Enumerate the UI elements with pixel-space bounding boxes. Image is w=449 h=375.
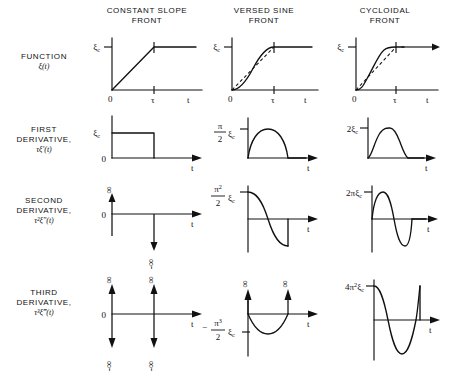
column-header-versed-sine: VERSED SINE FRONT [208, 6, 320, 25]
x-axis-arrow [192, 155, 202, 162]
impulse-down-at-tau [151, 314, 158, 348]
panel-function-constant-slope: ξc 0 τ t [92, 34, 216, 106]
curve-versed-sine [232, 47, 312, 90]
panel-third-derivative-versed-sine: ∞ ∞ − π3 2 ξc t [196, 268, 330, 372]
panel-first-derivative-constant-slope: ξc 0 t [92, 112, 216, 174]
impulse-up-at-zero [109, 284, 116, 314]
impulse-down-at-zero [109, 314, 116, 348]
x-axis-arrow [308, 155, 318, 162]
x-axis-label: t [191, 163, 194, 173]
column-header-constant-slope: CONSTANT SLOPE FRONT [88, 6, 206, 25]
y-axis-label: 2ξc [347, 124, 359, 135]
tau-label: τ [393, 95, 397, 105]
origin-label: 0 [228, 94, 233, 104]
panel-first-derivative-versed-sine: π 2 ξc t [206, 112, 330, 174]
svg-text:ξc: ξc [228, 129, 235, 140]
panel-third-derivative-cycloidal: 4π2ξc t [324, 268, 448, 372]
origin-label: 0 [108, 94, 113, 104]
panel-second-derivative-constant-slope: ∞ 0 -∞ t [92, 178, 216, 270]
row-label-symbol: τ³ξ‴(t) [2, 308, 86, 318]
x-axis-arrow [308, 311, 318, 318]
x-axis-label: t [307, 224, 310, 234]
row-label-line2: DERIVATIVE, [2, 135, 86, 145]
y-axis-label: 4π2ξc [345, 281, 364, 293]
x-axis-label: t [426, 95, 429, 105]
y-axis-label: ξc [213, 42, 220, 53]
svg-text:2: 2 [216, 332, 221, 342]
x-axis-arrow [430, 317, 440, 324]
figure-root: CONSTANT SLOPE FRONT VERSED SINE FRONT C… [0, 0, 449, 375]
panel-function-versed-sine: ξc 0 τ t [212, 34, 330, 106]
infinity-label-positive-left: ∞ [103, 276, 114, 283]
x-axis-arrow [308, 216, 318, 223]
impulse-up-at-tau [151, 284, 158, 314]
x-axis-label: t [191, 219, 194, 229]
y-axis-label: − π3 2 ξc [202, 317, 235, 342]
x-axis-label: t [187, 95, 190, 105]
column-header-cycloidal: CYCLOIDAL FRONT [330, 6, 440, 25]
infinity-label-positive: ∞ [103, 186, 114, 193]
x-axis-label: t [427, 224, 430, 234]
y-axis-label: ξc [337, 42, 344, 53]
row-label-line2: DERIVATIVE, [2, 298, 86, 308]
y-axis-label: π2 2 ξc [211, 183, 235, 208]
x-axis-label: t [429, 325, 432, 335]
zero-label: 0 [102, 154, 107, 164]
row-label-line2: DERIVATIVE, [2, 206, 86, 216]
y-axis-label: π 2 ξc [214, 121, 235, 144]
column-header-line1: VERSED SINE [208, 6, 320, 16]
dashed-chord [356, 47, 396, 90]
svg-text:2: 2 [218, 134, 223, 144]
row-label-line1: FIRST [2, 125, 86, 135]
infinity-label-positive-right: ∞ [145, 276, 156, 283]
row-label-symbol: ξ(t) [2, 62, 86, 72]
x-axis-label: t [425, 163, 428, 173]
panel-function-cycloidal: ξc 0 τ t [334, 34, 448, 106]
svg-text:−: − [202, 322, 207, 332]
row-label-line1: FUNCTION [2, 52, 86, 62]
x-axis-arrow [426, 155, 436, 162]
row-label-line1: SECOND [2, 196, 86, 206]
column-header-line2: FRONT [208, 16, 320, 26]
impulse-down-at-tau [151, 214, 158, 251]
panel-second-derivative-versed-sine: π2 2 ξc t [200, 178, 330, 270]
svg-text:ξc: ξc [228, 327, 235, 338]
svg-text:π3: π3 [214, 317, 222, 328]
row-label-line1: THIRD [2, 288, 86, 298]
x-axis-label: t [304, 95, 307, 105]
tau-label: τ [151, 95, 155, 105]
curve-negative-lobe [248, 314, 288, 334]
svg-text:π2: π2 [214, 183, 222, 194]
svg-text:ξc: ξc [228, 193, 235, 204]
row-label-third-derivative: THIRD DERIVATIVE, τ³ξ‴(t) [2, 288, 86, 318]
origin-label: 0 [352, 94, 357, 104]
row-label-function: FUNCTION ξ(t) [2, 52, 86, 72]
infinity-label-right: ∞ [279, 280, 290, 287]
row-label-first-derivative: FIRST DERIVATIVE, τξ'(t) [2, 125, 86, 155]
zero-label: 0 [102, 310, 107, 320]
svg-text:π: π [218, 121, 223, 131]
y-axis-label: 2πξc [346, 188, 362, 199]
row-label-symbol: τ²ξ"(t) [2, 216, 86, 226]
curve-cycloidal-hump [368, 128, 408, 158]
column-header-line2: FRONT [330, 16, 440, 26]
y-axis-label: ξc [93, 128, 100, 139]
column-header-line2: FRONT [88, 16, 206, 26]
infinity-label-left: ∞ [239, 280, 250, 287]
y-axis-label: ξc [93, 42, 100, 53]
x-axis-label: t [307, 319, 310, 329]
x-axis-label: t [191, 319, 194, 329]
svg-text:2: 2 [216, 198, 221, 208]
tau-label: τ [271, 95, 275, 105]
zero-label: 0 [102, 210, 107, 220]
column-header-line1: CYCLOIDAL [330, 6, 440, 16]
column-header-line1: CONSTANT SLOPE [88, 6, 206, 16]
curve-rect-pulse [112, 133, 154, 158]
curve-ramp [112, 47, 196, 90]
x-axis-arrow [428, 216, 438, 223]
impulse-up-at-tau [285, 289, 292, 314]
rightward-arrow [402, 44, 440, 51]
panel-second-derivative-cycloidal: 2πξc t [326, 178, 448, 270]
curve-cycloidal [356, 47, 404, 90]
curve-sine-hump [248, 129, 288, 158]
